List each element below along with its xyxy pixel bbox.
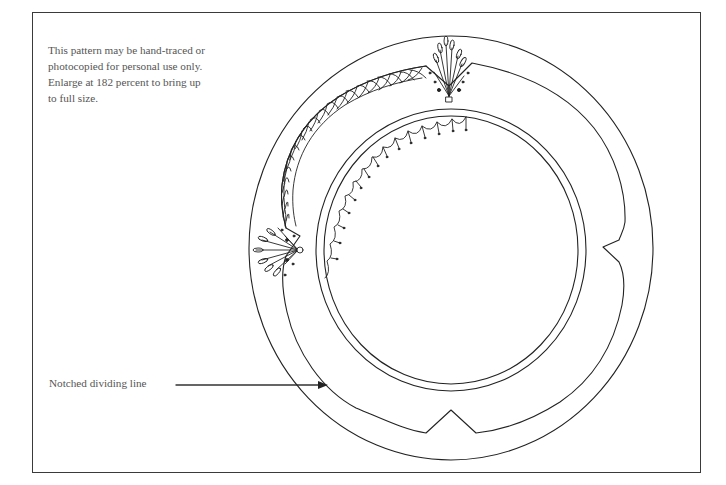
inner-ring-outer-edge [316,109,586,391]
pattern-drawing [0,0,726,485]
notched-dividing-line [281,63,625,433]
left-fan-ornament [253,227,303,277]
callout-arrow [176,381,328,389]
scalloped-cross-band [281,66,426,228]
top-fan-ornament [429,36,469,102]
inner-scallop-tassel-band [325,117,467,278]
inner-ring-inner-edge [324,116,578,384]
